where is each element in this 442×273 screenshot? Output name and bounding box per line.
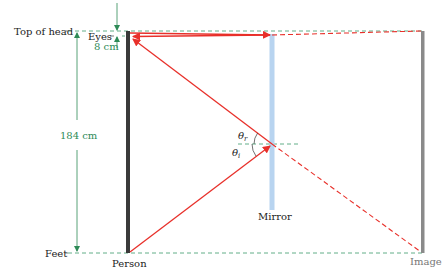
ray-mirror-to-eyes bbox=[133, 35, 270, 37]
virtual-ray-top bbox=[272, 31, 421, 35]
angle-arc-reflection bbox=[254, 133, 258, 144]
person-label: Person bbox=[112, 258, 147, 269]
virtual-ray-bottom bbox=[272, 144, 421, 252]
image-bar bbox=[421, 31, 425, 253]
feet-label: Feet bbox=[45, 248, 67, 259]
eye-offset-label: 8 cm bbox=[94, 41, 119, 52]
image-label: Image bbox=[410, 256, 442, 267]
mirror-diagram: Top of head Eyes 8 cm 184 cm Feet Person… bbox=[0, 0, 442, 273]
height-label: 184 cm bbox=[60, 130, 98, 141]
ray-feet-to-mirror bbox=[130, 146, 270, 252]
top-of-head-label: Top of head bbox=[14, 26, 74, 37]
mirror bbox=[270, 34, 275, 210]
theta-i-label: θi bbox=[232, 147, 240, 160]
theta-r-label: θr bbox=[238, 130, 248, 143]
person-bar bbox=[126, 31, 130, 253]
mirror-label: Mirror bbox=[258, 211, 292, 222]
angle-arc-incidence bbox=[252, 144, 256, 156]
ray-mirror-to-eyes-lower bbox=[133, 39, 272, 144]
